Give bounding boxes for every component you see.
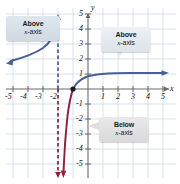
callout-right-line2: x-axis (103, 39, 149, 48)
callout-above-x-axis-left: Above x-axis (6, 16, 60, 41)
callout-bottom-line1: Below (101, 121, 147, 129)
curve-descending-branch (61, 89, 73, 178)
x-tick-label-2: 2 (116, 92, 120, 101)
x-axis-label: x (170, 84, 174, 93)
y-tick-label--2: -2 (76, 114, 83, 123)
figure-container: -5 -4 -3 -2 1 2 3 4 5 5 4 3 2 1 -1 -2 -3… (0, 0, 180, 184)
y-tick-label-1: 1 (79, 69, 83, 78)
callout-left-line2: x-axis (8, 28, 58, 37)
callout-right-axis-text: -axis (120, 39, 134, 46)
callout-left-line1: Above (8, 20, 58, 28)
x-tick-label--4: -4 (20, 92, 27, 101)
callout-below-x-axis: Below x-axis (99, 117, 149, 142)
y-tick-label-5: 5 (79, 9, 83, 18)
callout-above-x-axis-right: Above x-axis (101, 27, 151, 52)
y-axis (86, 13, 91, 178)
x-tick-label-3: 3 (131, 92, 135, 101)
callout-bottom-axis-text: -axis (118, 129, 132, 136)
x-tick-label--3: -3 (35, 92, 42, 101)
y-tick-label--3: -3 (76, 129, 83, 138)
callout-bottom-line2: x-axis (101, 129, 147, 138)
x-tick-label--5: -5 (5, 92, 12, 101)
y-tick-label--5: -5 (76, 159, 83, 168)
x-intercept-point (70, 86, 75, 91)
y-tick-label-3: 3 (79, 39, 83, 48)
y-tick-label--1: -1 (76, 99, 83, 108)
x-tick-label-4: 4 (146, 92, 150, 101)
x-tick-label--2: -2 (50, 92, 57, 101)
y-tick-label-2: 2 (79, 54, 83, 63)
y-axis-label: y (91, 3, 95, 12)
callout-left-axis-text: -axis (27, 28, 41, 35)
callout-bottom-tail (88, 122, 99, 130)
y-tick-label--4: -4 (76, 144, 83, 153)
x-tick-label-1: 1 (101, 92, 105, 101)
x-tick-label-5: 5 (161, 92, 165, 101)
y-tick-label-4: 4 (79, 24, 83, 33)
callout-right-line1: Above (103, 31, 149, 39)
curve-right-branch (73, 70, 169, 89)
